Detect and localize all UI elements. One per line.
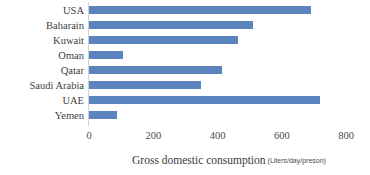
category-label: Saudi Arabia <box>4 78 84 93</box>
bar-row: Saudi Arabia <box>0 78 370 93</box>
bar-chart: USABaharainKuwaitOmanQatarSaudi ArabiaUA… <box>0 0 370 175</box>
bar-row: UAE <box>0 93 370 108</box>
x-tick-label: 400 <box>198 128 238 144</box>
x-axis-title-units: (Liters/day/preson) <box>268 157 326 164</box>
x-tick-label: 800 <box>326 128 366 144</box>
bar-row: Oman <box>0 48 370 63</box>
bar <box>89 111 117 119</box>
bar-row: Baharain <box>0 18 370 33</box>
bar <box>89 36 238 44</box>
category-label: Qatar <box>4 63 84 78</box>
x-tick-label: 0 <box>69 128 109 144</box>
x-axis-title-text: Gross domestic consumption <box>132 154 266 166</box>
bar <box>89 96 320 104</box>
x-axis-title: Gross domestic consumption(Liters/day/pr… <box>88 150 370 168</box>
bar-row: Qatar <box>0 63 370 78</box>
bar-row: Yemen <box>0 108 370 123</box>
plot-area: USABaharainKuwaitOmanQatarSaudi ArabiaUA… <box>0 0 370 128</box>
bar <box>89 21 253 29</box>
category-label: Yemen <box>4 108 84 123</box>
x-tick-label: 200 <box>133 128 173 144</box>
x-tick-label: 600 <box>262 128 302 144</box>
category-label: Kuwait <box>4 33 84 48</box>
bar-row: Kuwait <box>0 33 370 48</box>
bar-row: USA <box>0 3 370 18</box>
category-label: Baharain <box>4 18 84 33</box>
x-axis-tick-labels: 0200400600800 <box>0 128 370 144</box>
bar <box>89 51 123 59</box>
category-label: Oman <box>4 48 84 63</box>
category-label: UAE <box>4 93 84 108</box>
bar <box>89 81 201 89</box>
category-label: USA <box>4 3 84 18</box>
bar <box>89 6 311 14</box>
bar <box>89 66 222 74</box>
